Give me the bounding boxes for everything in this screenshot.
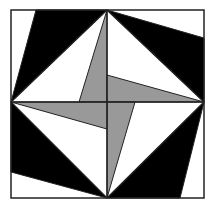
pinwheel-quilt-figure [0,0,213,206]
